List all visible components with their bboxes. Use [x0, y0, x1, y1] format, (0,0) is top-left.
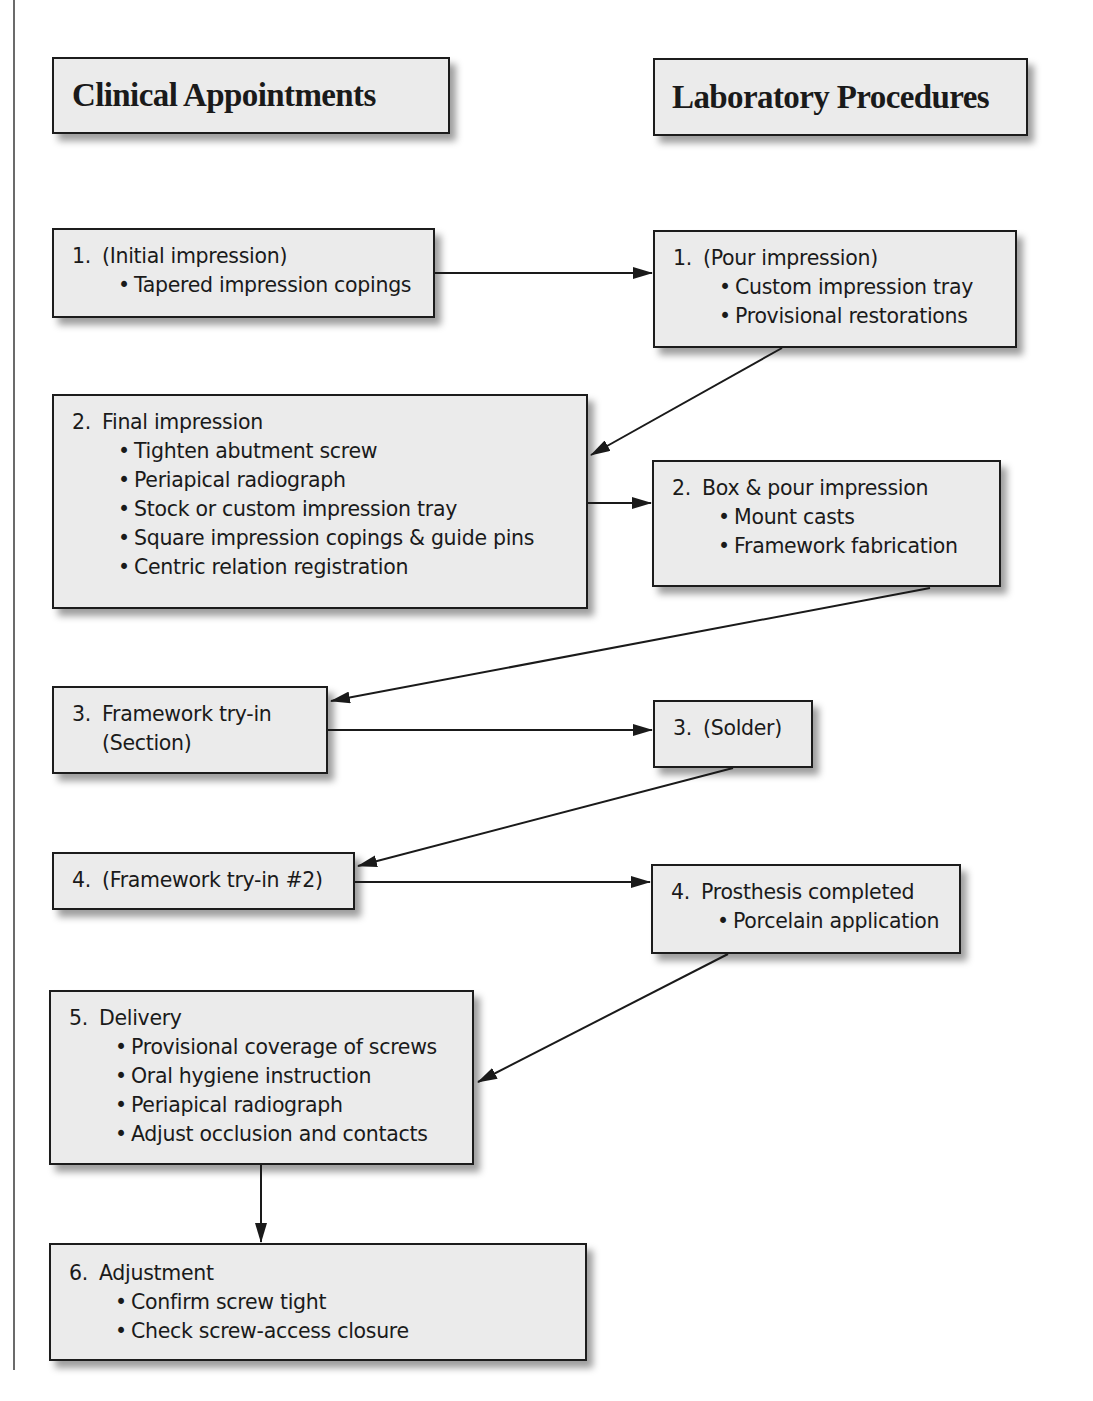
- step-bullet: Confirm screw tight: [115, 1288, 571, 1317]
- step-bullet: Periapical radiograph: [115, 1091, 458, 1120]
- step-bullets: Mount casts Framework fabrication: [672, 503, 985, 561]
- step-title: 4.(Framework try-in #2): [72, 866, 339, 895]
- clinical-step-1: 1.(Initial impression) Tapered impressio…: [52, 228, 435, 318]
- clinical-step-5: 5.Delivery Provisional coverage of screw…: [49, 990, 474, 1165]
- step-title: 5.Delivery: [69, 1004, 458, 1033]
- step-title: 1.(Initial impression): [72, 242, 419, 271]
- step-bullets: Confirm screw tight Check screw-access c…: [69, 1288, 571, 1346]
- step-bullet: Centric relation registration: [118, 553, 572, 582]
- step-title: 1.(Pour impression): [673, 244, 1001, 273]
- step-bullet: Oral hygiene instruction: [115, 1062, 458, 1091]
- step-bullet: Square impression copings & guide pins: [118, 524, 572, 553]
- lab-step-3: 3.(Solder): [653, 700, 813, 768]
- step-bullets: Porcelain application: [671, 907, 945, 936]
- clinical-step-4: 4.(Framework try-in #2): [52, 852, 355, 910]
- step-bullet: Provisional restorations: [719, 302, 1001, 331]
- clinical-step-3: 3.Framework try-in (Section): [52, 686, 328, 774]
- header-laboratory-label: Laboratory Procedures: [672, 81, 989, 114]
- arrow-lab1-to-clinical2: [591, 348, 782, 455]
- step-bullet: Custom impression tray: [719, 273, 1001, 302]
- step-title: 6.Adjustment: [69, 1259, 571, 1288]
- step-bullets: Tighten abutment screw Periapical radiog…: [72, 437, 572, 582]
- step-bullet: Tighten abutment screw: [118, 437, 572, 466]
- step-title: 3.(Solder): [673, 714, 797, 743]
- step-bullet: Adjust occlusion and contacts: [115, 1120, 458, 1149]
- lab-step-2: 2.Box & pour impression Mount casts Fram…: [652, 460, 1001, 587]
- step-title: 2.Box & pour impression: [672, 474, 985, 503]
- step-bullets: Custom impression tray Provisional resto…: [673, 273, 1001, 331]
- header-clinical-appointments: Clinical Appointments: [52, 57, 450, 134]
- step-bullet: Periapical radiograph: [118, 466, 572, 495]
- lab-step-1: 1.(Pour impression) Custom impression tr…: [653, 230, 1017, 348]
- page-margin-rule: [13, 0, 15, 1370]
- step-bullet: Mount casts: [718, 503, 985, 532]
- step-bullets: Provisional coverage of screws Oral hygi…: [69, 1033, 458, 1149]
- step-title: 4.Prosthesis completed: [671, 878, 945, 907]
- step-bullet: Porcelain application: [717, 907, 945, 936]
- arrow-lab3-to-clinical4: [358, 768, 733, 866]
- step-bullet: Stock or custom impression tray: [118, 495, 572, 524]
- step-bullet: Provisional coverage of screws: [115, 1033, 458, 1062]
- arrow-lab4-to-clinical5: [478, 954, 728, 1082]
- step-title: 2.Final impression: [72, 408, 572, 437]
- clinical-step-2: 2.Final impression Tighten abutment scre…: [52, 394, 588, 609]
- header-laboratory-procedures: Laboratory Procedures: [653, 58, 1028, 136]
- step-bullet: Tapered impression copings: [118, 271, 419, 300]
- step-bullet: Framework fabrication: [718, 532, 985, 561]
- step-bullets: Tapered impression copings: [72, 271, 419, 300]
- step-bullet: Check screw-access closure: [115, 1317, 571, 1346]
- step-title: 3.Framework try-in: [72, 700, 312, 729]
- lab-step-4: 4.Prosthesis completed Porcelain applica…: [651, 864, 961, 954]
- step-subline: (Section): [72, 729, 312, 758]
- header-clinical-label: Clinical Appointments: [72, 79, 376, 112]
- clinical-step-6: 6.Adjustment Confirm screw tight Check s…: [49, 1243, 587, 1361]
